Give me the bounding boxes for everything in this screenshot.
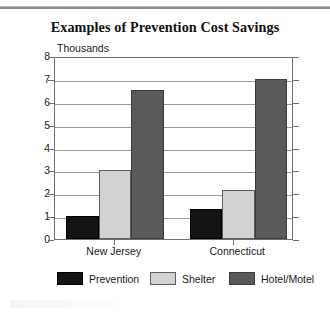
y-axis-tick-label: 8 xyxy=(30,50,50,62)
legend-label: Prevention xyxy=(89,273,139,285)
chart-title: Examples of Prevention Cost Savings xyxy=(0,19,330,36)
page-top-rule xyxy=(0,6,330,9)
y-axis-tick-mark-right xyxy=(293,240,299,241)
bar-shelter-new-jersey xyxy=(99,170,132,239)
y-axis-unit-label: Thousands xyxy=(57,42,109,54)
y-axis-tick-mark xyxy=(48,240,54,241)
x-axis-category-label: New Jersey xyxy=(65,245,163,257)
legend-swatch-icon xyxy=(57,272,83,285)
bar-shelter-connecticut xyxy=(222,190,255,239)
plot-area xyxy=(54,57,293,240)
y-axis-tick-label: 5 xyxy=(30,119,50,131)
y-axis-tick-mark-right xyxy=(293,149,299,150)
y-axis-tick-mark-right xyxy=(293,80,299,81)
y-axis-tick-label: 1 xyxy=(30,210,50,222)
y-axis-tick-label: 4 xyxy=(30,142,50,154)
bar-hotel-motel-connecticut xyxy=(255,79,288,239)
legend-item-hotel-motel: Hotel/Motel xyxy=(229,272,314,285)
y-axis-tick-mark-right xyxy=(293,57,299,58)
bar-hotel-motel-new-jersey xyxy=(131,90,164,239)
x-axis-tick-mark xyxy=(114,240,115,245)
legend-item-shelter: Shelter xyxy=(150,272,215,285)
y-axis-tick-label: 3 xyxy=(30,164,50,176)
y-axis-tick-label: 0 xyxy=(30,233,50,245)
legend-swatch-icon xyxy=(229,272,255,285)
y-axis-tick-mark-right xyxy=(293,194,299,195)
legend-swatch-icon xyxy=(150,272,176,285)
y-axis-tick-label: 2 xyxy=(30,187,50,199)
x-axis-category-label: Connecticut xyxy=(189,245,287,257)
y-axis-tick-mark-right xyxy=(293,217,299,218)
scan-artifact xyxy=(10,300,130,308)
y-axis-tick-label: 6 xyxy=(30,96,50,108)
y-axis-tick-label: 7 xyxy=(30,73,50,85)
y-axis-tick-mark-right xyxy=(293,171,299,172)
y-axis-tick-mark-right xyxy=(293,126,299,127)
bar-prevention-connecticut xyxy=(190,209,223,239)
x-axis-tick-mark xyxy=(233,240,234,245)
bar-prevention-new-jersey xyxy=(66,216,99,239)
legend-label: Shelter xyxy=(182,273,215,285)
chart-legend: PreventionShelterHotel/Motel xyxy=(57,272,317,290)
legend-label: Hotel/Motel xyxy=(261,273,314,285)
y-axis-tick-mark-right xyxy=(293,103,299,104)
legend-item-prevention: Prevention xyxy=(57,272,139,285)
